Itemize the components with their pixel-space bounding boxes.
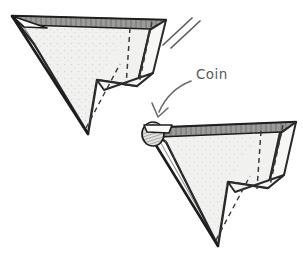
- coin-label: Coin: [196, 66, 228, 82]
- coin-pocket-lip: [144, 125, 172, 133]
- origami-diagram: Coin: [0, 0, 303, 260]
